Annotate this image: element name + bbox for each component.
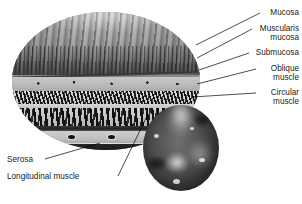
mucosa-shading [12, 12, 200, 75]
label-longitudinal-muscle: Longitudinal muscle [7, 172, 79, 181]
mucosal-highlight [173, 179, 180, 184]
label-mucosa-line1: Mucosa [270, 8, 299, 17]
layer-submucosa [12, 77, 200, 91]
layer-oblique-muscle [12, 91, 200, 104]
label-submucosa-line1: Submucosa [256, 48, 299, 57]
mucosal-highlight [190, 127, 194, 130]
label-serosa: Serosa [7, 155, 33, 164]
vessel-lumen [108, 135, 115, 139]
label-circular-muscle: Circular muscle [271, 88, 299, 107]
leader-submucosa [199, 53, 249, 70]
label-muscularis-mucosa-line2: mucosa [260, 33, 299, 42]
label-oblique-muscle: Oblique muscle [271, 64, 299, 83]
label-longitudinal-muscle-text: Longitudinal muscle [7, 172, 79, 181]
label-muscularis-mucosa-line1: Muscularis [260, 24, 299, 33]
vessel-lumen [68, 135, 75, 139]
label-submucosa: Submucosa [256, 48, 299, 57]
label-oblique-muscle-line1: Oblique [271, 64, 299, 73]
label-serosa-text: Serosa [7, 155, 33, 164]
leader-mucosa [196, 13, 260, 45]
mucosal-lesion [164, 151, 190, 173]
label-oblique-muscle-line2: muscle [271, 73, 299, 82]
endoscopic-inset [143, 105, 219, 191]
mucosal-highlight [154, 134, 159, 138]
mucosal-shadow [195, 115, 209, 125]
label-circular-muscle-line2: muscle [271, 97, 299, 106]
label-muscularis-mucosa: Muscularis mucosa [260, 24, 299, 43]
leader-muscularis-mucosa [197, 29, 252, 58]
specular-glare [166, 105, 196, 138]
leader-oblique-muscle [197, 69, 256, 84]
figure-stomach-wall-layers: Mucosa Muscularis mucosa Submucosa Obliq… [0, 0, 302, 204]
leader-circular-muscle [192, 93, 256, 97]
label-circular-muscle-line1: Circular [271, 88, 299, 97]
label-mucosa: Mucosa [270, 8, 299, 17]
mucosal-shadow [149, 158, 165, 169]
vessel-lumen [28, 135, 35, 139]
